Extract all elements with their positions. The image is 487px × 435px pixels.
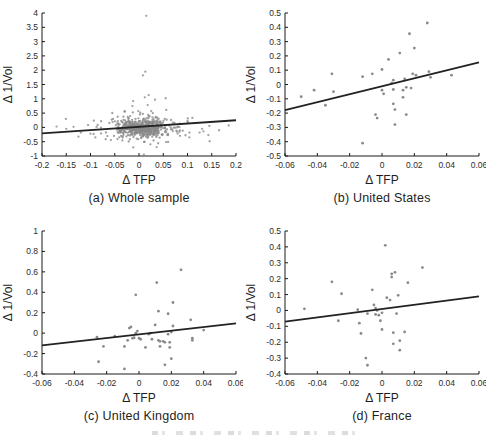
svg-text:0.02: 0.02: [406, 378, 423, 388]
svg-text:0.5: 0.5: [26, 108, 38, 118]
cropped-caption-fragment: [152, 431, 357, 435]
svg-text:Δ TFP: Δ TFP: [122, 391, 155, 405]
svg-text:-0.04: -0.04: [308, 378, 328, 388]
svg-text:0: 0: [380, 160, 385, 170]
svg-text:0.04: 0.04: [438, 378, 455, 388]
svg-text:-0.1: -0.1: [266, 94, 281, 104]
svg-text:-0.2: -0.2: [266, 108, 281, 118]
subplot-united-states: -0.5-0.4-0.3-0.2-0.100.10.20.30.40.5-0.0…: [243, 0, 487, 218]
svg-text:-0.04: -0.04: [308, 160, 328, 170]
subplot-france: -0.4-0.3-0.2-0.100.10.20.30.40.5-0.06-0.…: [243, 218, 487, 435]
scatter-figure: -1-0.500.511.522.533.54-0.2-0.15-0.1-0.0…: [0, 0, 487, 435]
svg-text:0.2: 0.2: [26, 308, 38, 318]
svg-text:-0.02: -0.02: [340, 378, 360, 388]
svg-text:0.05: 0.05: [155, 160, 172, 170]
svg-text:0.2: 0.2: [230, 160, 242, 170]
svg-text:-0.02: -0.02: [97, 378, 117, 388]
svg-text:2.5: 2.5: [26, 51, 38, 61]
svg-text:0: 0: [276, 80, 281, 90]
svg-text:1: 1: [33, 94, 38, 104]
svg-text:-0.3: -0.3: [266, 122, 281, 132]
svg-text:-0.06: -0.06: [275, 378, 295, 388]
svg-text:0.06: 0.06: [228, 378, 243, 388]
svg-text:0.1: 0.1: [269, 290, 281, 300]
svg-text:0.2: 0.2: [269, 274, 281, 284]
svg-text:-0.5: -0.5: [23, 137, 38, 147]
svg-text:4: 4: [33, 8, 38, 18]
subplot-caption-c: (c) United Kingdom: [42, 409, 236, 423]
svg-text:Δ 1/Vol: Δ 1/Vol: [244, 284, 258, 321]
svg-text:0.4: 0.4: [269, 242, 281, 252]
svg-text:0.2: 0.2: [269, 51, 281, 61]
svg-text:-0.2: -0.2: [266, 337, 281, 347]
svg-text:0.5: 0.5: [269, 8, 281, 18]
svg-text:0.02: 0.02: [163, 378, 180, 388]
subplot-united-kingdom: -0.4-0.200.20.40.60.81-0.06-0.04-0.0200.…: [0, 218, 243, 435]
svg-text:Δ 1/Vol: Δ 1/Vol: [244, 66, 258, 103]
svg-text:Δ TFP: Δ TFP: [122, 173, 155, 187]
svg-text:3.5: 3.5: [26, 22, 38, 32]
united-kingdom-chart: -0.4-0.200.20.40.60.81-0.06-0.04-0.0200.…: [0, 218, 243, 408]
svg-text:-0.3: -0.3: [266, 353, 281, 363]
svg-text:-0.04: -0.04: [65, 378, 85, 388]
subplot-caption-a: (a) Whole sample: [42, 191, 236, 205]
svg-text:1.5: 1.5: [26, 80, 38, 90]
svg-text:0: 0: [33, 122, 38, 132]
svg-text:-0.05: -0.05: [105, 160, 125, 170]
subplot-caption-d: (d) France: [285, 409, 479, 423]
svg-text:0.06: 0.06: [471, 160, 486, 170]
svg-text:0.6: 0.6: [26, 267, 38, 277]
svg-text:3: 3: [33, 37, 38, 47]
svg-text:-0.2: -0.2: [23, 349, 38, 359]
united-states-chart: -0.5-0.4-0.3-0.2-0.100.10.20.30.40.5-0.0…: [243, 0, 486, 190]
svg-text:0.3: 0.3: [269, 258, 281, 268]
svg-text:-0.4: -0.4: [266, 137, 281, 147]
svg-text:-0.06: -0.06: [32, 378, 52, 388]
france-chart: -0.4-0.3-0.2-0.100.10.20.30.40.5-0.06-0.…: [243, 218, 486, 408]
svg-text:0.15: 0.15: [203, 160, 220, 170]
svg-text:0.3: 0.3: [269, 37, 281, 47]
svg-text:-0.1: -0.1: [83, 160, 98, 170]
svg-text:0: 0: [380, 378, 385, 388]
svg-text:2: 2: [33, 65, 38, 75]
svg-text:0.8: 0.8: [26, 246, 38, 256]
svg-text:0.02: 0.02: [406, 160, 423, 170]
svg-text:-0.15: -0.15: [57, 160, 77, 170]
svg-text:0.04: 0.04: [195, 378, 212, 388]
svg-text:0.4: 0.4: [269, 22, 281, 32]
svg-text:0: 0: [33, 328, 38, 338]
svg-text:0.06: 0.06: [471, 378, 486, 388]
svg-text:0: 0: [137, 378, 142, 388]
svg-text:0.1: 0.1: [182, 160, 194, 170]
svg-text:-0.02: -0.02: [340, 160, 360, 170]
svg-text:Δ TFP: Δ TFP: [365, 391, 398, 405]
svg-text:Δ TFP: Δ TFP: [365, 173, 398, 187]
whole-sample-chart: -1-0.500.511.522.533.54-0.2-0.15-0.1-0.0…: [0, 0, 243, 190]
subplot-whole-sample: -1-0.500.511.522.533.54-0.2-0.15-0.1-0.0…: [0, 0, 243, 218]
svg-text:0.1: 0.1: [269, 65, 281, 75]
svg-text:0.5: 0.5: [269, 226, 281, 236]
svg-text:-0.06: -0.06: [275, 160, 295, 170]
svg-text:0.04: 0.04: [438, 160, 455, 170]
svg-text:Δ 1/Vol: Δ 1/Vol: [1, 284, 15, 321]
svg-text:0: 0: [276, 305, 281, 315]
svg-text:0.4: 0.4: [26, 287, 38, 297]
svg-text:-0.1: -0.1: [266, 321, 281, 331]
svg-text:-0.2: -0.2: [35, 160, 50, 170]
svg-text:0: 0: [137, 160, 142, 170]
subplot-caption-b: (b) United States: [285, 191, 479, 205]
svg-text:Δ 1/Vol: Δ 1/Vol: [1, 66, 15, 103]
svg-text:1: 1: [33, 226, 38, 236]
